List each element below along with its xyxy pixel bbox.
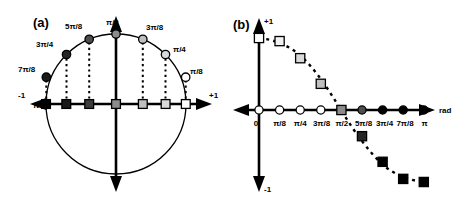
x-marker-3pi4 <box>379 106 387 114</box>
cos-marker-pi4 <box>296 54 305 63</box>
panel-a-svg: (a) <box>0 0 231 205</box>
angle-label-3pi4: 3π/4 <box>36 40 54 49</box>
angle-label-3pi8: 3π/8 <box>146 23 164 32</box>
cos-marker-pi <box>419 177 428 186</box>
cos-marker-3pi8 <box>316 79 325 88</box>
vertical-axis-down-arrow <box>110 176 122 192</box>
arc-marker-5pi8 <box>85 35 93 43</box>
cos-marker-pi2 <box>337 105 346 114</box>
x-tick-label-3pi8: 3π/8 <box>313 119 331 128</box>
panel-a-label: (a) <box>33 15 49 30</box>
panel-b: (b) <box>231 0 462 205</box>
arc-marker-7pi8 <box>42 73 50 81</box>
x-tick-label-0: 0 <box>254 119 259 128</box>
panel-b-svg: (b) <box>231 0 462 205</box>
x-axis-unit-label: rad <box>439 106 452 115</box>
axis-marker-3pi8 <box>138 100 147 109</box>
y-axis-bottom-label: -1 <box>264 185 272 194</box>
axis-label-pi: π <box>33 101 39 110</box>
x-marker-pi <box>420 106 428 114</box>
arc-marker-pi4 <box>161 50 169 58</box>
arc-marker-3pi4 <box>62 50 70 58</box>
axis-marker-pi <box>42 100 51 109</box>
x-tick-label-pi8: π/8 <box>273 119 286 128</box>
x-marker-0 <box>255 106 263 114</box>
x-marker-7pi8 <box>399 106 407 114</box>
x-tick-label-pi2: π/2 <box>335 119 348 128</box>
axis-marker-5pi8 <box>112 100 121 109</box>
figure-container: (a) <box>0 0 462 205</box>
axis-marker-7pi8 <box>62 100 71 109</box>
axis-end-label-minus-one: -1 <box>18 91 26 100</box>
axis-label-zero: 0 <box>196 101 201 110</box>
x-tick-label-7pi8: 7π/8 <box>396 119 414 128</box>
x-tick-label-pi4: π/4 <box>294 119 307 128</box>
axis-marker-pi8 <box>181 100 190 109</box>
arc-marker-3pi8 <box>139 35 147 43</box>
angle-label-pi8: π/8 <box>190 67 203 76</box>
x-tick-label-pi: π <box>421 119 427 128</box>
cos-marker-5pi8 <box>357 132 366 141</box>
cos-marker-3pi4 <box>378 157 387 166</box>
panel-b-label: (b) <box>233 17 250 32</box>
x-marker-3pi8 <box>317 106 325 114</box>
axis-end-label-plus-one: +1 <box>209 91 219 100</box>
arc-marker-pi2 <box>112 30 120 38</box>
x-tick-label-3pi4: 3π/4 <box>376 119 394 128</box>
x-marker-pi8 <box>276 106 284 114</box>
axis-marker-3pi4 <box>85 100 94 109</box>
x-marker-pi4 <box>296 106 304 114</box>
panel-a: (a) <box>0 0 231 205</box>
y-axis-top-label: +1 <box>264 17 274 26</box>
x-marker-5pi8 <box>358 106 366 114</box>
angle-label-pi2: π/2 <box>106 18 119 27</box>
cos-marker-7pi8 <box>399 174 408 183</box>
arc-marker-pi8 <box>182 73 190 81</box>
angle-label-7pi4: 7π/8 <box>18 65 36 74</box>
cos-marker-0 <box>254 33 263 42</box>
x-tick-label-5pi8: 5π/8 <box>355 119 373 128</box>
cos-marker-pi8 <box>275 37 284 46</box>
x-axis-left-arrow <box>233 104 249 116</box>
angle-label-5pi8: 5π/8 <box>65 22 83 31</box>
angle-label-pi4: π/4 <box>173 45 186 54</box>
axis-marker-pi4 <box>161 100 170 109</box>
axis-projection-markers <box>42 100 191 109</box>
